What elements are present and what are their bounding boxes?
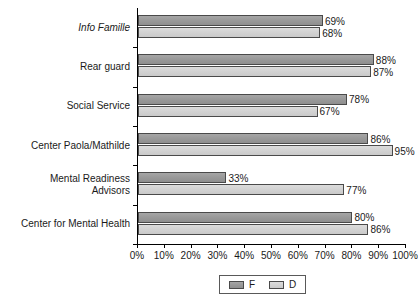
x-axis-tick-label: 100%: [392, 250, 418, 261]
bar-f: 69%: [138, 15, 323, 26]
bar-value-label: 86%: [370, 133, 390, 144]
category-label-line: Center Paola/Mathilde: [31, 139, 130, 152]
x-axis-tick: [244, 244, 245, 248]
bar-value-label: 77%: [346, 184, 366, 195]
x-axis-tick: [217, 244, 218, 248]
x-axis-tick: [351, 244, 352, 248]
category-label: Rear guard: [80, 61, 130, 74]
x-axis-tick-label: 20%: [181, 250, 201, 261]
bar-value-label: 67%: [320, 106, 340, 117]
x-axis-tick-label: 50%: [261, 250, 281, 261]
bar-d: 67%: [138, 106, 318, 117]
bar-f: 78%: [138, 94, 347, 105]
bar-chart: Info Famille69%68%Rear guard88%87%Social…: [0, 0, 418, 308]
x-axis-tick: [325, 244, 326, 248]
x-axis-tick-label: 10%: [154, 250, 174, 261]
x-axis-tick: [405, 244, 406, 248]
category-label-line: Mental Readiness: [50, 172, 130, 185]
bar-f: 33%: [138, 172, 226, 183]
x-axis-tick-label: 70%: [315, 250, 335, 261]
x-axis-tick-label: 30%: [207, 250, 227, 261]
bar-f: 86%: [138, 133, 368, 144]
bar-value-label: 69%: [325, 15, 345, 26]
bar-value-label: 33%: [228, 172, 248, 183]
bar-value-label: 86%: [370, 224, 390, 235]
category-label-line: Advisors: [50, 185, 130, 198]
category-label-line: Rear guard: [80, 61, 130, 74]
legend-item-d: D: [269, 279, 296, 290]
category-row: Mental ReadinessAdvisors33%77%: [137, 165, 405, 204]
x-axis-tick-label: 60%: [288, 250, 308, 261]
category-label: Social Service: [67, 100, 130, 113]
category-label-line: Center for Mental Health: [21, 218, 130, 231]
legend-item-f: F: [229, 279, 255, 290]
legend-label-f: F: [249, 279, 255, 290]
x-axis-tick-label: 40%: [234, 250, 254, 261]
legend-swatch-d-icon: [269, 281, 284, 289]
x-axis-tick: [164, 244, 165, 248]
bar-value-label: 68%: [322, 27, 342, 38]
bar-value-label: 80%: [354, 212, 374, 223]
category-label: Info Famille: [78, 21, 130, 34]
category-row: Center Paola/Mathilde86%95%: [137, 126, 405, 165]
category-row: Social Service78%67%: [137, 87, 405, 126]
bar-value-label: 78%: [349, 94, 369, 105]
bar-d: 86%: [138, 224, 368, 235]
category-row: Center for Mental Health80%86%: [137, 205, 405, 244]
category-label-line: Social Service: [67, 100, 130, 113]
category-label-line: Info Famille: [78, 21, 130, 34]
category-row: Rear guard88%87%: [137, 47, 405, 86]
bar-d: 77%: [138, 184, 344, 195]
x-axis-tick-label: 90%: [368, 250, 388, 261]
x-axis-tick-label: 0%: [130, 250, 144, 261]
bar-value-label: 87%: [373, 66, 393, 77]
plot-area: Info Famille69%68%Rear guard88%87%Social…: [137, 8, 405, 244]
x-axis-tick-label: 80%: [341, 250, 361, 261]
legend-label-d: D: [289, 279, 296, 290]
bar-f: 80%: [138, 212, 352, 223]
bar-value-label: 95%: [395, 145, 415, 156]
legend-swatch-f-icon: [229, 281, 244, 289]
x-axis-tick: [378, 244, 379, 248]
bar-value-label: 88%: [376, 54, 396, 65]
bar-d: 87%: [138, 66, 371, 77]
category-label: Center for Mental Health: [21, 218, 130, 231]
x-axis-tick: [191, 244, 192, 248]
category-row: Info Famille69%68%: [137, 8, 405, 47]
category-label: Mental ReadinessAdvisors: [50, 172, 130, 197]
category-label: Center Paola/Mathilde: [31, 139, 130, 152]
bar-d: 95%: [138, 145, 393, 156]
bar-d: 68%: [138, 27, 320, 38]
bar-f: 88%: [138, 54, 374, 65]
x-axis-tick: [271, 244, 272, 248]
x-axis-tick: [298, 244, 299, 248]
chart-legend: F D: [219, 275, 306, 294]
x-axis-tick: [137, 244, 138, 248]
